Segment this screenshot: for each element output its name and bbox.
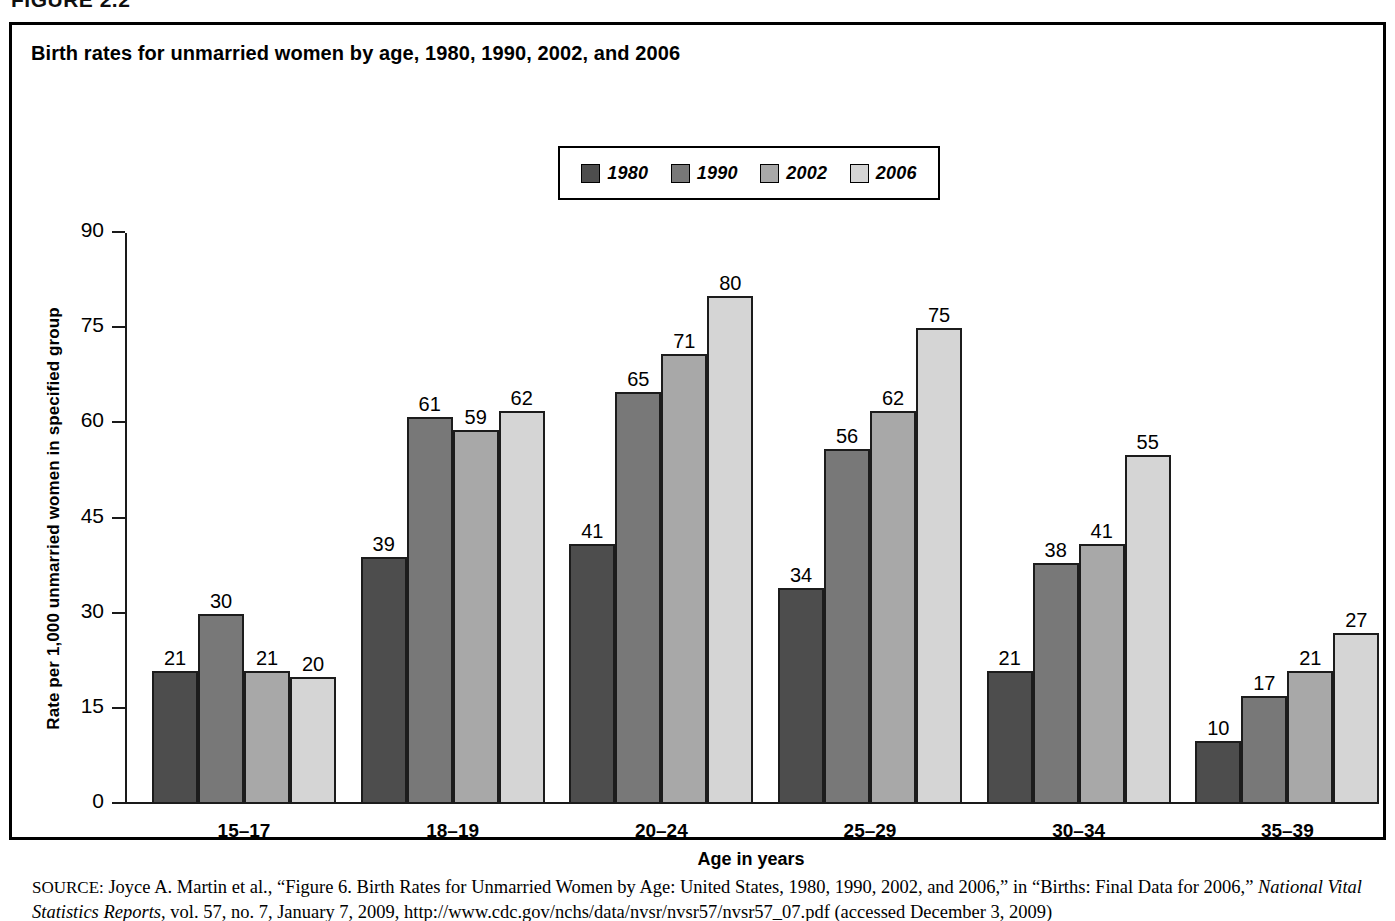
bar-value-label: 10 <box>1207 717 1229 740</box>
bar-value-label: 38 <box>1045 539 1067 562</box>
bar-rect: 41 <box>569 544 615 804</box>
bar-rect: 62 <box>499 411 545 804</box>
x-tick-label: 35–39 <box>1261 820 1314 842</box>
bar-rect: 62 <box>870 411 916 804</box>
bar-rect: 34 <box>778 588 824 804</box>
figure-caption: FIGURE 2.2 <box>11 0 130 8</box>
legend-swatch-icon <box>850 164 869 183</box>
legend-swatch-icon <box>671 164 690 183</box>
bar-1990-18–19[interactable]: 61 <box>407 233 453 804</box>
y-tick: 60 <box>112 421 125 423</box>
bar-value-label: 55 <box>1137 431 1159 454</box>
bar-2006-30–34[interactable]: 55 <box>1125 233 1171 804</box>
x-tick-label: 30–34 <box>1052 820 1105 842</box>
bar-2002-30–34[interactable]: 41 <box>1079 233 1125 804</box>
bar-value-label: 62 <box>882 387 904 410</box>
legend-item-1990[interactable]: 1990 <box>671 163 738 184</box>
x-tick-label: 15–17 <box>218 820 271 842</box>
bar-2006-25–29[interactable]: 75 <box>916 233 962 804</box>
bar-2002-18–19[interactable]: 59 <box>453 233 499 804</box>
bar-2006-35–39[interactable]: 27 <box>1333 233 1379 804</box>
bar-rect: 21 <box>152 671 198 804</box>
bar-1980-25–29[interactable]: 34 <box>778 233 824 804</box>
legend-label: 1980 <box>607 163 648 184</box>
bar-rect: 27 <box>1333 633 1379 804</box>
y-tick: 30 <box>112 612 125 614</box>
bar-2002-15–17[interactable]: 21 <box>244 233 290 804</box>
bar-value-label: 61 <box>419 393 441 416</box>
bar-1980-30–34[interactable]: 21 <box>987 233 1033 804</box>
bar-1990-15–17[interactable]: 30 <box>198 233 244 804</box>
legend-swatch-icon <box>760 164 779 183</box>
bar-2002-35–39[interactable]: 21 <box>1287 233 1333 804</box>
bar-group: 2138415530–34 <box>987 233 1171 804</box>
bar-rect: 59 <box>453 430 499 804</box>
x-tick-label: 18–19 <box>426 820 479 842</box>
x-tick-label: 20–24 <box>635 820 688 842</box>
bar-rect: 21 <box>987 671 1033 804</box>
bar-1990-20–24[interactable]: 65 <box>615 233 661 804</box>
plot-area: 0153045607590 2130212015–173961596218–19… <box>125 233 1377 804</box>
bar-value-label: 65 <box>627 368 649 391</box>
y-tick-label: 75 <box>81 313 104 337</box>
bar-value-label: 59 <box>465 406 487 429</box>
bar-value-label: 71 <box>673 330 695 353</box>
y-tick: 45 <box>112 517 125 519</box>
x-tick-label: 25–29 <box>844 820 897 842</box>
bar-value-label: 17 <box>1253 672 1275 695</box>
bar-rect: 20 <box>290 677 336 804</box>
bar-group: 3961596218–19 <box>361 233 545 804</box>
bar-2006-15–17[interactable]: 20 <box>290 233 336 804</box>
bar-1990-25–29[interactable]: 56 <box>824 233 870 804</box>
legend-item-2002[interactable]: 2002 <box>760 163 827 184</box>
y-tick: 75 <box>112 326 125 328</box>
legend-label: 2006 <box>876 163 917 184</box>
legend-item-2006[interactable]: 2006 <box>850 163 917 184</box>
y-tick: 15 <box>112 707 125 709</box>
bar-rect: 10 <box>1195 741 1241 804</box>
bar-rect: 21 <box>1287 671 1333 804</box>
bar-2006-18–19[interactable]: 62 <box>499 233 545 804</box>
chart-title: Birth rates for unmarried women by age, … <box>31 42 680 65</box>
legend-item-1980[interactable]: 1980 <box>581 163 648 184</box>
legend-swatch-icon <box>581 164 600 183</box>
bar-value-label: 30 <box>210 590 232 613</box>
y-tick: 0 <box>112 802 125 804</box>
bar-rect: 38 <box>1033 563 1079 804</box>
bar-rect: 56 <box>824 449 870 804</box>
bar-value-label: 21 <box>256 647 278 670</box>
bar-1980-35–39[interactable]: 10 <box>1195 233 1241 804</box>
bar-rect: 17 <box>1241 696 1287 804</box>
bar-group: 2130212015–17 <box>152 233 336 804</box>
bar-value-label: 21 <box>1299 647 1321 670</box>
bar-rect: 41 <box>1079 544 1125 804</box>
bar-2002-20–24[interactable]: 71 <box>661 233 707 804</box>
bar-value-label: 41 <box>1091 520 1113 543</box>
bar-2006-20–24[interactable]: 80 <box>707 233 753 804</box>
bar-group: 4165718020–24 <box>569 233 753 804</box>
bar-1990-30–34[interactable]: 38 <box>1033 233 1079 804</box>
y-tick-label: 30 <box>81 599 104 623</box>
bar-1980-15–17[interactable]: 21 <box>152 233 198 804</box>
y-tick-label: 0 <box>92 789 104 813</box>
bar-value-label: 21 <box>164 647 186 670</box>
source-text-accessed-date: December 3, 2009) <box>910 902 1052 921</box>
bar-rect: 75 <box>916 328 962 804</box>
bar-1990-35–39[interactable]: 17 <box>1241 233 1287 804</box>
bar-value-label: 20 <box>302 653 324 676</box>
bar-rect: 30 <box>198 614 244 804</box>
bar-rect: 39 <box>361 557 407 804</box>
bar-rect: 80 <box>707 296 753 804</box>
bar-rect: 65 <box>615 392 661 804</box>
legend-label: 2002 <box>786 163 827 184</box>
source-note: SOURCE: Joyce A. Martin et al., “Figure … <box>32 875 1392 921</box>
bar-1980-18–19[interactable]: 39 <box>361 233 407 804</box>
bar-rect: 55 <box>1125 455 1171 804</box>
bar-value-label: 39 <box>373 533 395 556</box>
bar-1980-20–24[interactable]: 41 <box>569 233 615 804</box>
source-label: SOURCE: <box>32 878 104 897</box>
y-tick-label: 15 <box>81 694 104 718</box>
bar-value-label: 27 <box>1345 609 1367 632</box>
bar-value-label: 75 <box>928 304 950 327</box>
bar-2002-25–29[interactable]: 62 <box>870 233 916 804</box>
